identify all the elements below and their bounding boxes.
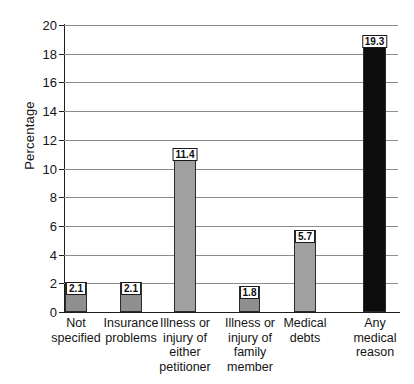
bar-slot: 2.1 xyxy=(65,25,87,312)
y-tick-label: 4 xyxy=(50,247,57,262)
plot-area: 02468101214161820 2.12.111.41.85.719.3 xyxy=(64,25,398,312)
x-axis-label-line: injury of xyxy=(152,331,218,346)
y-tick-label: 16 xyxy=(43,75,57,90)
x-axis-label-line: Illness or xyxy=(152,316,218,331)
bar[interactable] xyxy=(174,148,196,312)
x-axis-label-line: debts xyxy=(272,331,338,346)
bar-slot: 2.1 xyxy=(120,25,142,312)
bar-slot: 1.8 xyxy=(239,25,260,312)
x-axis-label-line: Any xyxy=(342,316,408,331)
bar-slot: 11.4 xyxy=(174,25,196,312)
x-axis-category-labels: NotspecifiedInsuranceproblemsIllness ori… xyxy=(64,316,400,384)
x-axis-label: Medicaldebts xyxy=(272,316,338,345)
y-tick-label: 14 xyxy=(43,104,57,119)
x-axis-label-line: family xyxy=(217,345,283,360)
y-tick-label: 6 xyxy=(50,218,57,233)
y-tick-label: 18 xyxy=(43,46,57,61)
x-axis-label: Illness orinjury ofeitherpetitioner xyxy=(152,316,218,374)
y-tick-label: 10 xyxy=(43,161,57,176)
y-tick-label: 12 xyxy=(43,132,57,147)
bar-value-label: 2.1 xyxy=(66,282,86,295)
bar-chart: Percentage 02468101214161820 2.12.111.41… xyxy=(0,0,414,384)
y-tick-label: 2 xyxy=(50,276,57,291)
y-tick-label: 20 xyxy=(43,18,57,33)
bar-slot: 5.7 xyxy=(294,25,316,312)
gridline xyxy=(64,312,398,313)
bar-series: 2.12.111.41.85.719.3 xyxy=(64,25,398,312)
bar-value-label: 19.3 xyxy=(362,35,387,48)
bar-value-label: 2.1 xyxy=(121,282,141,295)
bar[interactable] xyxy=(363,35,386,312)
x-axis-label-line: medical xyxy=(342,331,408,346)
bar-value-label: 1.8 xyxy=(240,286,260,299)
x-axis-label: Anymedicalreason xyxy=(342,316,408,360)
x-axis-label-line: either xyxy=(152,345,218,360)
bar-slot: 19.3 xyxy=(363,25,386,312)
bar-value-label: 11.4 xyxy=(173,148,198,161)
x-axis-label-line: Medical xyxy=(272,316,338,331)
y-tick-mark xyxy=(59,312,64,313)
y-tick-label: 8 xyxy=(50,190,57,205)
x-axis-label-line: petitioner xyxy=(152,360,218,375)
bar-value-label: 5.7 xyxy=(295,230,315,243)
x-axis-label-line: member xyxy=(217,360,283,375)
y-axis-title: Percentage xyxy=(22,71,37,201)
x-axis-label-line: reason xyxy=(342,345,408,360)
